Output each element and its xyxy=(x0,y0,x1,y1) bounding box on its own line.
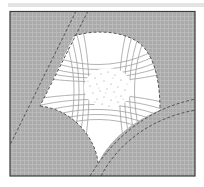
stippled-core xyxy=(84,68,132,108)
diagram xyxy=(0,0,204,187)
